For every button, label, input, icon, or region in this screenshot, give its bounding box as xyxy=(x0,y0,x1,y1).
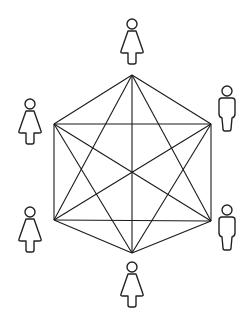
body-shape xyxy=(19,219,42,252)
female-person-icon xyxy=(121,262,144,307)
body-shape xyxy=(219,98,235,131)
head-shape xyxy=(25,207,35,217)
head-shape xyxy=(222,205,232,215)
person-node-lower-left xyxy=(19,207,42,252)
head-shape xyxy=(222,86,232,96)
edge-top-upper-left xyxy=(54,75,132,124)
male-person-icon xyxy=(219,86,235,131)
head-shape xyxy=(127,262,137,272)
complete-graph-diagram xyxy=(0,0,251,329)
person-node-lower-right xyxy=(219,205,235,250)
nodes-group xyxy=(19,19,235,307)
person-node-upper-left xyxy=(19,99,42,144)
edge-lower-right-lower-left xyxy=(54,220,211,221)
edge-top-upper-right xyxy=(132,75,211,124)
body-shape xyxy=(121,274,144,307)
male-person-icon xyxy=(219,205,235,250)
body-shape xyxy=(219,217,235,250)
edge-bottom-lower-left xyxy=(54,220,132,253)
body-shape xyxy=(19,111,42,144)
head-shape xyxy=(127,19,137,29)
female-person-icon xyxy=(121,19,144,64)
person-node-upper-right xyxy=(219,86,235,131)
person-node-bottom xyxy=(121,262,144,307)
edges-group xyxy=(54,75,211,253)
edge-bottom-upper-left xyxy=(54,124,132,253)
body-shape xyxy=(121,31,144,64)
head-shape xyxy=(25,99,35,109)
female-person-icon xyxy=(19,99,42,144)
female-person-icon xyxy=(19,207,42,252)
person-node-top xyxy=(121,19,144,64)
edge-lower-right-bottom xyxy=(132,221,211,253)
edge-upper-right-bottom xyxy=(132,124,211,253)
